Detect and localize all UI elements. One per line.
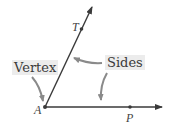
- point-label-P: P: [126, 112, 133, 124]
- sides-label: Sides: [105, 55, 145, 70]
- point-label-T: T: [72, 21, 79, 33]
- vertex-label: Vertex: [12, 60, 58, 75]
- angle-diagram: Vertex Sides A T P: [0, 0, 169, 128]
- sides-arrow-to-AP: [101, 73, 107, 100]
- vertex-point-A: [43, 105, 47, 109]
- sides-arrow-to-AT: [74, 58, 102, 63]
- vertex-arrow-to-A: [32, 77, 43, 101]
- ray-AT: [45, 7, 92, 107]
- point-label-A: A: [34, 104, 41, 116]
- point-P: [128, 105, 132, 109]
- point-T: [80, 27, 84, 31]
